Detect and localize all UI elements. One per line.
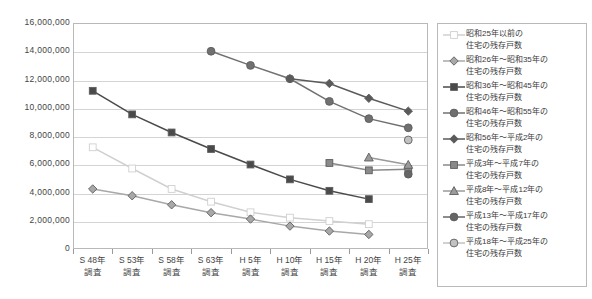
x-axis-label-line2: 調査 [381,267,435,279]
x-axis-tick [112,249,113,254]
legend-item[interactable]: 平成13年～平成17年の住宅の残存戸数 [442,210,584,235]
gridline [74,81,427,82]
y-axis-tick-label: 0 [4,243,70,253]
legend-label-line2: 住宅の残存戸数 [466,144,543,156]
legend-item[interactable]: 平成8年～平成12年の住宅の残存戸数 [442,184,584,209]
legend-label: 昭和46年～昭和55年の住宅の残存戸数 [466,106,548,129]
x-axis-tick [389,249,390,254]
y-axis-tick-label: 10,000,000 [4,102,70,112]
legend-label-line2: 住宅の残存戸数 [466,118,548,130]
legend-label-line1: 昭和25年以前の [466,28,523,40]
gridline [74,194,427,195]
legend-label-line1: 平成8年～平成12年の [466,184,543,196]
y-axis-tick-label: 14,000,000 [4,45,70,55]
gridline [74,222,427,223]
legend-label-line2: 住宅の残存戸数 [466,248,548,260]
legend-label-line1: 昭和46年～昭和55年の [466,106,548,118]
legend-label-line1: 昭和36年～昭和45年の [466,80,548,92]
legend-marker-icon [442,55,466,67]
residual-dwellings-line-chart: 16,000,00014,000,00012,000,00010,000,000… [0,0,592,299]
y-axis-tick-label: 12,000,000 [4,74,70,84]
y-axis-tick-label: 2,000,000 [4,215,70,225]
legend-label: 平成13年～平成17年の住宅の残存戸数 [466,210,548,233]
legend-label-line1: 平成3年～平成7年の [466,158,539,170]
x-axis-tick [310,249,311,254]
legend: 昭和25年以前の住宅の残存戸数昭和26年～昭和35年の住宅の残存戸数昭和36年～… [437,23,587,287]
gridline [74,52,427,53]
legend-label-line2: 住宅の残存戸数 [466,40,523,52]
legend-label: 平成3年～平成7年の住宅の残存戸数 [466,158,539,181]
legend-label-line1: 平成13年～平成17年の [466,210,548,222]
legend-marker-icon [442,29,466,41]
legend-item[interactable]: 平成3年～平成7年の住宅の残存戸数 [442,158,584,183]
x-axis-tick [73,249,74,254]
legend-label: 平成8年～平成12年の住宅の残存戸数 [466,184,543,207]
legend-item[interactable]: 昭和26年～昭和35年の住宅の残存戸数 [442,54,584,79]
legend-label-line2: 住宅の残存戸数 [466,196,543,208]
x-axis-tick [231,249,232,254]
gridline [74,137,427,138]
legend-item[interactable]: 昭和36年～昭和45年の住宅の残存戸数 [442,80,584,105]
legend-label: 昭和25年以前の住宅の残存戸数 [466,28,523,51]
x-axis-tick [428,249,429,254]
legend-marker-icon [442,159,466,171]
legend-label: 昭和36年～昭和45年の住宅の残存戸数 [466,80,548,103]
x-axis-label-line1: H 25年 [381,255,435,267]
legend-marker-icon [442,237,466,249]
x-axis-tick [191,249,192,254]
x-axis-tick [349,249,350,254]
legend-label-line2: 住宅の残存戸数 [466,66,548,78]
legend-label-line2: 住宅の残存戸数 [466,170,539,182]
gridline [74,165,427,166]
plot-area [73,23,428,249]
legend-marker-icon [442,133,466,145]
legend-marker-icon [442,81,466,93]
legend-item[interactable]: 昭和46年～昭和55年の住宅の残存戸数 [442,106,584,131]
legend-label-line1: 平成18年～平成25年の [466,236,548,248]
legend-label-line1: 昭和56年～平成2年の [466,132,543,144]
y-axis-tick-label: 4,000,000 [4,187,70,197]
legend-marker-icon [442,185,466,197]
x-axis-tick [152,249,153,254]
legend-label: 平成18年～平成25年の住宅の残存戸数 [466,236,548,259]
legend-marker-icon [442,107,466,119]
legend-label: 昭和56年～平成2年の住宅の残存戸数 [466,132,543,155]
legend-marker-icon [442,211,466,223]
y-axis-tick-label: 8,000,000 [4,130,70,140]
legend-item[interactable]: 昭和25年以前の住宅の残存戸数 [442,28,584,53]
x-axis-label: H 25年調査 [381,255,435,278]
gridline [74,109,427,110]
legend-item[interactable]: 平成18年～平成25年の住宅の残存戸数 [442,236,584,261]
legend-label-line2: 住宅の残存戸数 [466,222,548,234]
legend-label: 昭和26年～昭和35年の住宅の残存戸数 [466,54,548,77]
legend-label-line2: 住宅の残存戸数 [466,92,548,104]
legend-item[interactable]: 昭和56年～平成2年の住宅の残存戸数 [442,132,584,157]
x-axis-tick [270,249,271,254]
y-axis-tick-label: 6,000,000 [4,158,70,168]
legend-label-line1: 昭和26年～昭和35年の [466,54,548,66]
y-axis-tick-label: 16,000,000 [4,17,70,27]
